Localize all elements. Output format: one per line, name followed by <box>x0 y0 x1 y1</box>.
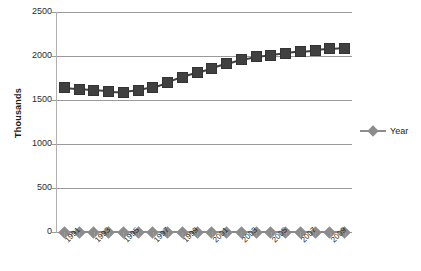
data-point-square[interactable] <box>88 85 99 96</box>
data-point-square[interactable] <box>339 43 350 54</box>
data-point-square[interactable] <box>295 46 306 57</box>
data-point-square[interactable] <box>177 72 188 83</box>
data-point-square[interactable] <box>324 43 335 54</box>
y-axis-tick-label: 2000 <box>12 50 52 60</box>
plot-area <box>57 12 352 232</box>
y-axis-tick-label: 500 <box>12 182 52 192</box>
chart-container: Thousands 05001000150020002500 199119931… <box>0 0 421 271</box>
gridline <box>57 144 352 145</box>
x-axis-tick-mark <box>138 232 139 237</box>
data-point-square[interactable] <box>133 85 144 96</box>
gridline <box>57 12 352 13</box>
y-axis-line <box>56 12 57 233</box>
gridline <box>57 188 352 189</box>
x-axis-tick-mark <box>168 232 169 237</box>
chart-legend: Year <box>360 126 408 136</box>
data-point-square[interactable] <box>221 58 232 69</box>
data-point-square[interactable] <box>265 50 276 61</box>
x-axis-tick-mark <box>345 232 346 237</box>
x-axis-tick-mark <box>79 232 80 237</box>
legend-diamond-icon <box>360 126 386 136</box>
data-point-square[interactable] <box>280 48 291 59</box>
gridline <box>57 100 352 101</box>
x-axis-tick-mark <box>286 232 287 237</box>
data-point-square[interactable] <box>206 63 217 74</box>
y-axis-tick-label: 0 <box>12 226 52 236</box>
gridline <box>57 56 352 57</box>
data-point-square[interactable] <box>162 77 173 88</box>
data-point-square[interactable] <box>74 84 85 95</box>
data-point-square[interactable] <box>103 86 114 97</box>
data-point-square[interactable] <box>251 51 262 62</box>
y-axis-tick-label: 1000 <box>12 138 52 148</box>
x-axis-tick-mark <box>256 232 257 237</box>
y-axis-tick-label: 1500 <box>12 94 52 104</box>
x-axis-tick-mark <box>197 232 198 237</box>
data-point-square[interactable] <box>236 54 247 65</box>
x-axis-tick-mark <box>109 232 110 237</box>
data-point-square[interactable] <box>192 67 203 78</box>
y-axis-tick-label: 2500 <box>12 6 52 16</box>
legend-item-label: Year <box>390 126 408 136</box>
data-point-square[interactable] <box>118 87 129 98</box>
x-axis-tick-mark <box>227 232 228 237</box>
x-axis-tick-mark <box>315 232 316 237</box>
data-point-square[interactable] <box>59 82 70 93</box>
data-point-square[interactable] <box>310 45 321 56</box>
data-point-square[interactable] <box>147 82 158 93</box>
